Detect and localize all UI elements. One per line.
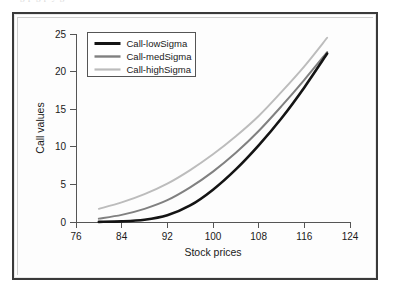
x-tick-label: 84 (116, 231, 128, 242)
x-tick-label: 92 (162, 231, 174, 242)
y-ticks-group: 0510152025 (55, 29, 76, 228)
x-ticks-group: 768492100108116124 (70, 222, 358, 242)
legend-label-3: Call-highSigma (127, 64, 192, 75)
legend-label-2: Call-medSigma (127, 51, 193, 62)
x-tick-label: 76 (70, 231, 82, 242)
y-tick-label: 15 (55, 104, 67, 115)
y-axis-title: Call values (34, 102, 46, 153)
y-tick-label: 0 (60, 217, 66, 228)
x-axis-title: Stock prices (184, 246, 241, 258)
x-tick-label: 108 (250, 231, 267, 242)
series-line-call-medsigma (99, 52, 327, 219)
chart-legend: Call-lowSigmaCall-medSigmaCall-highSigma (88, 33, 196, 77)
chart-plot-area: 0510152025 768492100108116124 Call value… (0, 0, 395, 294)
x-tick-label: 124 (342, 231, 359, 242)
y-tick-label: 25 (55, 29, 67, 40)
line-chart: 0510152025 768492100108116124 Call value… (0, 0, 395, 294)
legend-label-1: Call-lowSigma (127, 38, 188, 49)
y-tick-label: 5 (60, 179, 66, 190)
y-tick-label: 20 (55, 66, 67, 77)
y-tick-label: 10 (55, 141, 67, 152)
x-tick-label: 116 (296, 231, 312, 242)
x-tick-label: 100 (205, 231, 222, 242)
